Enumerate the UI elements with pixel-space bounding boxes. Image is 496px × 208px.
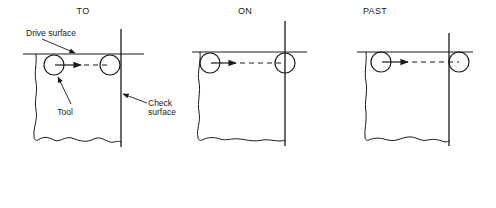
panel-on: ON (192, 6, 307, 146)
panel-title-on: ON (238, 6, 252, 16)
label-tool: Tool (57, 107, 73, 117)
workpiece-bottom-edge (369, 137, 449, 142)
workpiece-left-edge (365, 52, 369, 140)
check-surface-leader (123, 94, 147, 103)
panel-title-past: PAST (363, 6, 387, 16)
tool-position-diagram: TO Drive surface Tool Check surface ON (0, 0, 496, 208)
workpiece-bottom-edge (38, 137, 121, 142)
panel-to: TO Drive surface Tool Check surface (23, 6, 176, 147)
drive-surface-leader (42, 39, 75, 53)
workpiece-bottom-edge (202, 138, 285, 141)
tool-leader (58, 77, 71, 104)
label-drive-surface: Drive surface (26, 28, 76, 38)
panel-title-to: TO (77, 6, 90, 16)
panel-past: PAST (357, 6, 473, 146)
workpiece-left-edge (34, 54, 38, 140)
label-check-line2: surface (148, 107, 176, 117)
